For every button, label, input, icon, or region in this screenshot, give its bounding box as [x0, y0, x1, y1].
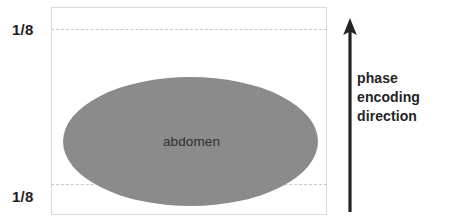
fraction-label-top: 1/8 [12, 22, 33, 37]
fraction-label-bottom: 1/8 [12, 189, 33, 204]
caption-line-2: encoding [357, 88, 420, 107]
abdomen-ellipse: abdomen [63, 77, 318, 206]
dashed-line-top [51, 29, 327, 30]
phase-encoding-diagram: abdomen 1/8 1/8 phase encoding direction [0, 0, 449, 222]
phase-encoding-caption: phase encoding direction [357, 69, 420, 126]
caption-line-1: phase [357, 69, 420, 88]
abdomen-label: abdomen [63, 77, 318, 206]
caption-line-3: direction [357, 107, 420, 126]
